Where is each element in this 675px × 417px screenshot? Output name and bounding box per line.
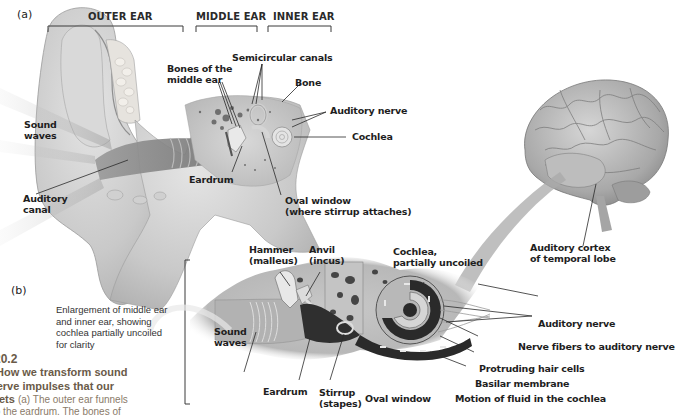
label-hammer: Hammer (malleus) — [249, 244, 298, 266]
label-auditory-canal: Auditory canal — [23, 193, 68, 215]
region-outer-ear: OUTER EAR — [88, 11, 153, 22]
label-auditory-nerve-a: Auditory nerve — [330, 105, 407, 116]
label-auditory-cortex: Auditory cortex of temporal lobe — [530, 242, 616, 264]
region-middle-ear: MIDDLE EAR — [196, 11, 266, 22]
figure-number: 20.2 — [0, 352, 17, 366]
label-bone: Bone — [295, 77, 321, 88]
panel-b-description: Enlargement of middle ear and inner ear,… — [56, 304, 167, 350]
label-fluid-motion: Motion of fluid in the cochlea — [455, 393, 606, 404]
label-oval-window-b: Oval window — [365, 393, 431, 404]
figure-caption-title: How we transform sound nerve impulses th… — [0, 366, 128, 407]
label-eardrum-b: Eardrum — [263, 386, 307, 397]
region-inner-ear: INNER EAR — [273, 11, 335, 22]
panel-a-label: (a) — [17, 8, 32, 21]
label-bones-middle-ear: Bones of the middle ear — [167, 63, 232, 85]
label-eardrum-a: Eardrum — [189, 174, 233, 185]
panel-b-label: (b) — [11, 284, 27, 297]
label-anvil: Anvil (incus) — [309, 244, 344, 266]
figure-caption-body: to the eardrum. The bones of — [0, 406, 121, 417]
auditory-pathway-arrow — [455, 172, 566, 292]
label-auditory-nerve-b: Auditory nerve — [538, 318, 615, 329]
label-semicircular-canals: Semicircular canals — [232, 52, 332, 63]
label-oval-window-a: Oval window (where stirrup attaches) — [285, 195, 411, 217]
label-basilar-membrane: Basilar membrane — [475, 378, 569, 389]
label-sound-waves-a: Sound waves — [24, 119, 57, 141]
label-sound-waves-b: Sound waves — [214, 326, 247, 348]
label-cochlea: Cochlea — [352, 131, 393, 142]
brain-drawing — [525, 80, 669, 232]
label-cochlea-uncoiled: Cochlea, partially uncoiled — [393, 246, 483, 268]
label-hair-cells: Protruding hair cells — [479, 363, 585, 374]
label-nerve-fibers: Nerve fibers to auditory nerve — [518, 341, 675, 352]
label-stirrup: Stirrup (stapes) — [319, 387, 362, 409]
